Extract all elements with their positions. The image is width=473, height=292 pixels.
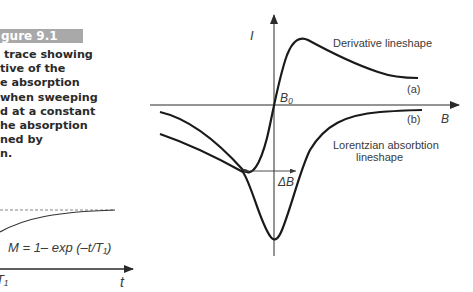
b-axis-label: B <box>441 112 449 126</box>
derivative-lineshape-label: Derivative lineshape <box>333 37 432 49</box>
lorentzian-label-line1: Lorentzian absorbtion <box>333 139 439 151</box>
i-axis-label: I <box>250 28 254 43</box>
relaxation-equation: M = 1– exp (–t/T₁) <box>8 240 111 255</box>
curve-a-label: (a) <box>407 83 420 95</box>
lorentzian-label-line2: lineshape <box>356 151 403 163</box>
time-axis-label: t <box>120 274 125 290</box>
relaxation-plot: M = 1– exp (–t/T₁) T₁ t <box>0 210 133 290</box>
diagram-canvas: M = 1– exp (–t/T₁) T₁ t I B B₀ ΔB Deriva… <box>0 0 473 292</box>
lineshape-plot: I B B₀ ΔB Derivative lineshape (a) (b) L… <box>150 15 459 256</box>
t1-tick-label: T₁ <box>0 272 8 287</box>
delta-b-label: ΔB <box>277 175 294 189</box>
recovery-curve <box>0 210 115 232</box>
b0-label: B₀ <box>280 91 293 105</box>
curve-b-label: (b) <box>407 113 420 125</box>
